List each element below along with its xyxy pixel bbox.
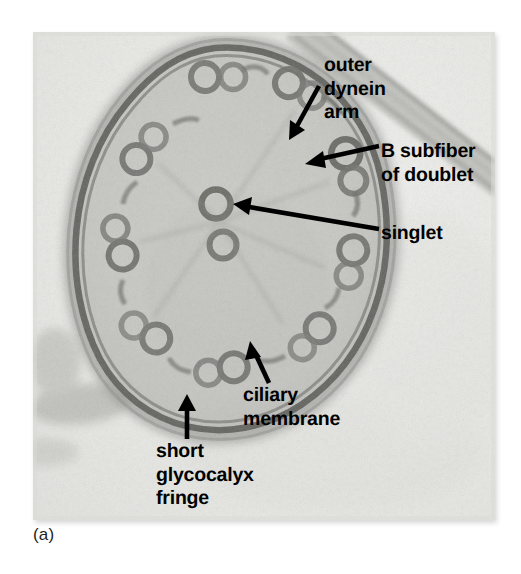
label-line: arm <box>324 101 386 125</box>
electron-micrograph-image <box>33 32 495 520</box>
label-b-subfiber-of-doublet: B subfiber of doublet <box>381 140 475 187</box>
label-line: of doublet <box>381 164 475 188</box>
label-ciliary-membrane: ciliary membrane <box>243 384 340 431</box>
label-singlet: singlet <box>381 222 442 246</box>
label-line: outer <box>324 54 386 78</box>
label-short-glycocalyx-fringe: short glycocalyx fringe <box>156 440 254 511</box>
label-outer-dynein-arm: outer dynein arm <box>324 54 386 125</box>
label-line: short <box>156 440 254 464</box>
micrograph-canvas <box>33 32 495 520</box>
label-line: glycocalyx <box>156 464 254 488</box>
label-line: dynein <box>324 78 386 102</box>
label-line: fringe <box>156 487 254 511</box>
label-line: membrane <box>243 408 340 432</box>
figure-panel: outer dynein arm B subfiber of doublet s… <box>0 0 521 574</box>
label-line: B subfiber <box>381 140 475 164</box>
label-line: singlet <box>381 222 442 246</box>
panel-caption: (a) <box>33 525 54 545</box>
label-line: ciliary <box>243 384 340 408</box>
